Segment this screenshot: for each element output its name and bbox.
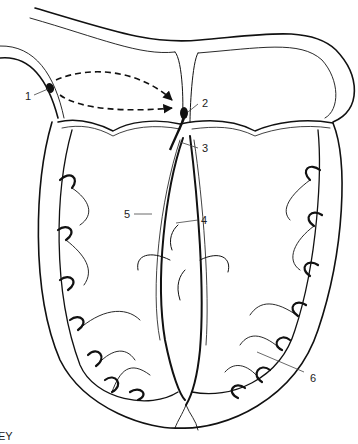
label-6: 6 — [310, 372, 316, 384]
bundle-branch-detail — [138, 225, 229, 300]
av-valve-line-inner — [62, 126, 330, 136]
interventricular-septum-right — [186, 136, 202, 405]
apex-fibers — [175, 405, 198, 430]
right-ventricle-inner — [192, 130, 319, 394]
leader-line-1 — [34, 89, 48, 95]
label-4: 4 — [201, 214, 207, 226]
purkinje-fibers-left — [58, 175, 143, 400]
conduction-arrow-upper — [56, 72, 172, 100]
leader-line-2 — [188, 104, 198, 112]
label-3: 3 — [202, 142, 208, 154]
key-label: EY — [0, 430, 13, 442]
label-2: 2 — [202, 97, 208, 109]
leader-line-6 — [257, 352, 304, 372]
sa-node — [45, 82, 56, 94]
ventricle-outer-wall — [38, 122, 342, 428]
interventricular-septum-left — [161, 138, 185, 400]
av-node — [180, 107, 188, 119]
leader-line-4 — [176, 220, 198, 223]
heart-conduction-diagram: 1 2 3 4 5 6 — [0, 0, 358, 444]
av-valve-line — [58, 120, 333, 131]
conduction-arrow-lower — [60, 95, 172, 110]
leader-line-3 — [180, 142, 198, 148]
label-5: 5 — [124, 208, 130, 220]
label-1: 1 — [25, 90, 31, 102]
purkinje-thin-right — [225, 180, 314, 382]
left-ventricle-inner — [59, 130, 178, 401]
